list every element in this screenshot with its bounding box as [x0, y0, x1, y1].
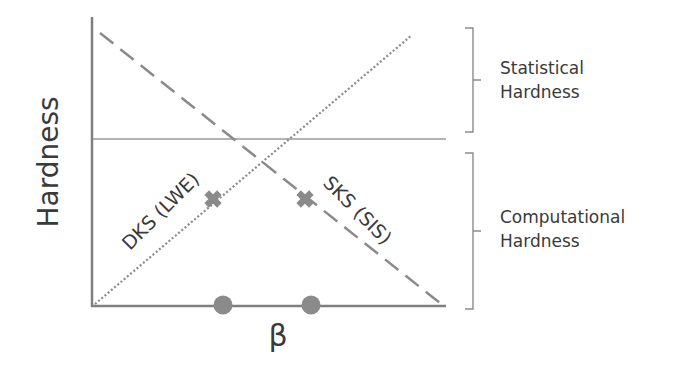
statistical-label-line1: Statistical [500, 56, 584, 80]
dks-cross-marker [200, 186, 225, 211]
computational-label-line1: Computational [500, 205, 625, 229]
sks-line [100, 33, 445, 307]
statistical-label-line2: Hardness [500, 80, 584, 104]
dks-label: DKS (LWE) [117, 168, 203, 254]
computational-bracket [465, 153, 481, 309]
sks-cross-marker [292, 186, 317, 211]
beta-circle-marker-2 [302, 296, 321, 315]
beta-circle-marker-1 [214, 296, 233, 315]
dks-line [95, 35, 412, 304]
computational-hardness-label: Computational Hardness [500, 205, 625, 253]
statistical-bracket [465, 28, 481, 132]
statistical-hardness-label: Statistical Hardness [500, 56, 584, 104]
x-axis-label: β [268, 318, 287, 353]
hardness-diagram: DKS (LWE) SKS (SIS) Hardness β [0, 0, 696, 375]
y-axis-label: Hardness [32, 96, 65, 227]
computational-label-line2: Hardness [500, 229, 625, 253]
